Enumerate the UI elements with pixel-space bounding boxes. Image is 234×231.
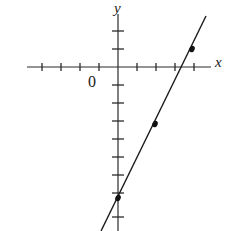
graph-canvas: [0, 0, 234, 231]
y-axis-label: y: [114, 1, 121, 16]
origin-label: 0: [88, 74, 96, 90]
data-point-upper: [188, 45, 196, 53]
x-axis-label: x: [215, 55, 222, 70]
coordinate-plane-figure: y x 0: [0, 0, 234, 231]
